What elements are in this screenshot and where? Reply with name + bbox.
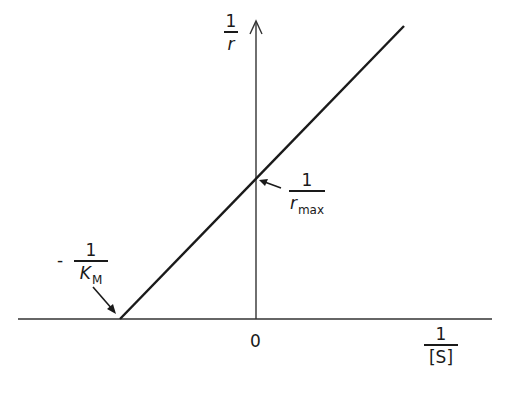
plot-line xyxy=(120,26,404,319)
x-intercept-subscript: M xyxy=(92,273,102,287)
y-intercept-label: 1 rmax xyxy=(289,171,325,214)
x-axis-label-numerator: 1 xyxy=(436,325,447,343)
x-intercept-label: 1 KM xyxy=(74,241,108,284)
fraction-bar xyxy=(74,260,108,262)
x-intercept-numerator: 1 xyxy=(86,241,97,259)
fraction-bar xyxy=(224,31,238,33)
y-axis-label-denominator: r xyxy=(228,35,235,53)
y-intercept-numerator: 1 xyxy=(302,171,313,189)
y-intercept-subscript: max xyxy=(298,203,324,217)
y-intercept-denominator: rmax xyxy=(290,194,324,214)
x-axis-label-denominator: [S] xyxy=(429,348,453,366)
fraction-bar xyxy=(424,344,458,346)
y-axis-label: 1 r xyxy=(224,12,238,53)
fraction-bar xyxy=(289,190,325,192)
x-intercept-sign: - xyxy=(57,252,63,269)
origin-label: 0 xyxy=(250,333,261,350)
x-intercept-denominator: KM xyxy=(80,264,103,284)
y-axis-label-numerator: 1 xyxy=(226,12,237,30)
x-axis-label: 1 [S] xyxy=(424,325,458,366)
